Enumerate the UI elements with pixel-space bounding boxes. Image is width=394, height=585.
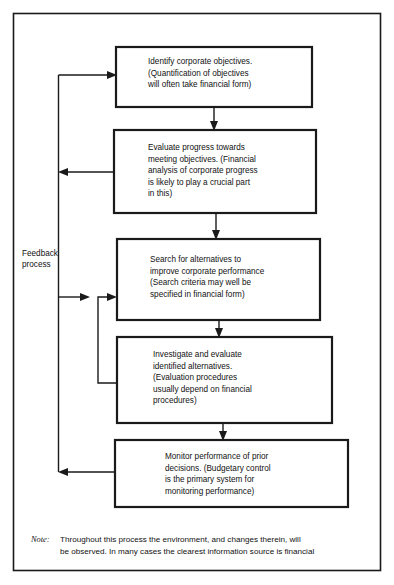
box-text-line: specified in financial form)	[150, 290, 245, 299]
note-label: Note:	[30, 535, 50, 544]
box-text-line: monitoring performance)	[165, 487, 254, 496]
arrowhead-right	[80, 293, 90, 301]
flowchart-diagram: Identify corporate objectives. (Quantifi…	[0, 0, 394, 585]
box-text-line: will often take financial form)	[147, 80, 252, 89]
arrowhead-left	[58, 468, 68, 476]
box-label-identify-objectives: Identify corporate objectives. (Quantifi…	[147, 57, 252, 89]
box-text-line: improve corporate performance	[150, 267, 265, 276]
connector-identify-to-evaluate	[210, 107, 218, 131]
box-text-line: is likely to play a crucial part	[148, 178, 251, 187]
box-text-line: decisions. (Budgetary control	[165, 464, 271, 473]
process-box-monitor-performance	[115, 440, 348, 507]
connector-investigate-to-search-feedback	[98, 293, 117, 383]
figure-note: Note: Throughout this process the enviro…	[30, 535, 314, 556]
note-text-line: Throughout this process the environment,…	[60, 535, 301, 544]
feedback-rail	[58, 71, 117, 476]
rail-label-line: Feedback	[22, 249, 59, 258]
box-text-line: is the primary system for	[165, 475, 254, 484]
box-text-line: meeting objectives. (Financial	[148, 155, 256, 164]
connector-investigate-to-monitor	[219, 423, 227, 441]
box-text-line: (Quantification of objectives	[148, 69, 249, 78]
box-text-line: Monitor performance of prior	[165, 452, 269, 461]
box-text-line: Search for alternatives to	[150, 255, 241, 264]
box-text-line: procedures)	[153, 396, 197, 405]
box-text-line: (Evaluation procedures	[153, 373, 237, 382]
connector-search-to-investigate	[215, 320, 223, 338]
arrowhead-left	[58, 168, 68, 176]
connector-evaluate-to-search	[212, 213, 220, 240]
box-text-line: Evaluate progress towards	[148, 143, 245, 152]
figure-root: Identify corporate objectives. (Quantifi…	[0, 0, 394, 585]
feedback-process-label: Feedback process	[22, 249, 59, 269]
box-text-line: Investigate and evaluate	[153, 350, 242, 359]
note-text-line: be observed. In many cases the clearest …	[60, 547, 314, 556]
box-text-line: identified alternatives.	[153, 362, 232, 371]
rail-label-line: process	[22, 260, 51, 269]
arrowhead-right	[107, 293, 117, 301]
box-text-line: analysis of corporate progress	[148, 166, 258, 175]
box-text-line: usually depend on financial	[153, 385, 252, 394]
box-text-line: in this)	[148, 189, 172, 198]
box-text-line: Identify corporate objectives.	[148, 57, 252, 66]
box-text-line: (Search criteria may well be	[150, 278, 251, 287]
